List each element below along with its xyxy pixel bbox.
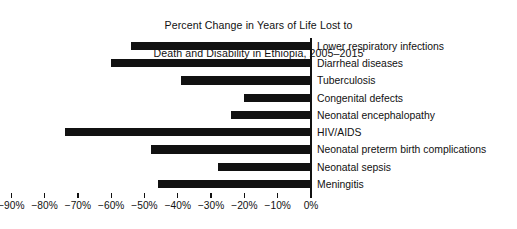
x-tick-label: −40% (165, 199, 191, 213)
x-tick-label: −90% (0, 199, 24, 213)
x-tick-label: −80% (31, 199, 57, 213)
bar-row: Meningitis (0, 176, 517, 193)
bar (151, 145, 311, 153)
x-tick-mark (11, 193, 12, 198)
bar-row: Lower respiratory infections (0, 38, 517, 55)
x-tick-mark (244, 193, 245, 198)
bar-category-label: Neonatal encephalopathy (317, 108, 435, 123)
x-axis: −90%−80%−70%−60%−50%−40%−30%−20%−10%0% (0, 193, 517, 229)
x-tick-label: −10% (265, 199, 291, 213)
x-tick-mark (111, 193, 112, 198)
x-tick-mark (44, 193, 45, 198)
bar (231, 111, 311, 119)
bar-row: Neonatal sepsis (0, 159, 517, 176)
bar-row: Diarrheal diseases (0, 55, 517, 72)
x-tick-label: −50% (131, 199, 157, 213)
bar-category-label: Neonatal preterm birth complications (317, 142, 486, 157)
bar-row: Neonatal encephalopathy (0, 107, 517, 124)
bar-category-label: Tuberculosis (317, 73, 376, 88)
x-tick-label: −20% (231, 199, 257, 213)
bar-category-label: Congenital defects (317, 91, 403, 106)
chart-title-line-1: Percent Change in Years of Life Lost to (165, 19, 353, 31)
x-tick-mark (177, 193, 178, 198)
x-tick-mark (77, 193, 78, 198)
x-tick-mark (277, 193, 278, 198)
x-tick-mark (210, 193, 211, 198)
bar-row: HIV/AIDS (0, 124, 517, 141)
bar (218, 163, 311, 171)
bar (111, 59, 311, 67)
x-tick-label: 0% (304, 199, 319, 213)
bar (158, 180, 311, 188)
bar-category-label: Neonatal sepsis (317, 160, 391, 175)
bar-category-label: Meningitis (317, 177, 364, 192)
bar-category-label: Lower respiratory infections (317, 39, 444, 54)
bar-row: Tuberculosis (0, 72, 517, 89)
x-tick-mark (310, 193, 311, 198)
x-tick-label: −70% (65, 199, 91, 213)
bar-category-label: Diarrheal diseases (317, 56, 403, 71)
x-tick-mark (144, 193, 145, 198)
bar-row: Congenital defects (0, 90, 517, 107)
bar (131, 42, 311, 50)
bar (244, 94, 311, 102)
plot-area: Lower respiratory infectionsDiarrheal di… (0, 38, 517, 193)
x-tick-label: −60% (98, 199, 124, 213)
chart-container: Percent Change in Years of Life Lost to … (0, 0, 517, 229)
bar (181, 76, 311, 84)
x-tick-label: −30% (198, 199, 224, 213)
bar-row: Neonatal preterm birth complications (0, 141, 517, 158)
bar-category-label: HIV/AIDS (317, 125, 361, 140)
bar (65, 128, 311, 136)
